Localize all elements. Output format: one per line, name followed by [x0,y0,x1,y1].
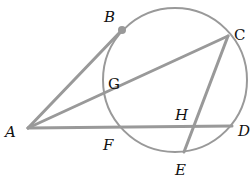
point-label-b: B [103,8,115,26]
point-label-g: G [108,75,120,93]
point-label-e: E [174,161,186,179]
tangent-point-b-marker [118,26,126,34]
secant-AD [28,126,232,128]
geometry-diagram: ABCDEFGH [0,0,251,181]
point-label-c: C [234,26,245,44]
point-label-f: F [102,136,114,154]
segments [28,30,232,152]
point-label-h: H [174,106,189,124]
point-label-d: D [237,122,250,140]
point-label-a: A [3,123,16,141]
point-labels: ABCDEFGH [3,8,250,179]
